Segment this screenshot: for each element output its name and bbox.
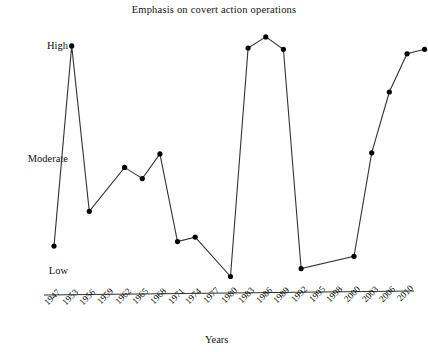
data-point bbox=[87, 209, 92, 214]
data-point bbox=[193, 235, 198, 240]
data-point bbox=[51, 244, 56, 249]
data-point bbox=[351, 254, 356, 259]
data-point bbox=[157, 151, 162, 156]
data-point bbox=[175, 239, 180, 244]
data-point bbox=[246, 46, 251, 51]
data-point bbox=[369, 150, 374, 155]
data-point bbox=[122, 165, 127, 170]
data-point bbox=[69, 43, 74, 48]
data-point bbox=[299, 266, 304, 271]
data-point bbox=[140, 176, 145, 181]
data-series-line bbox=[54, 37, 425, 277]
data-point bbox=[387, 89, 392, 94]
chart-container: Emphasis on covert action operations Hig… bbox=[0, 0, 428, 352]
data-point bbox=[281, 47, 286, 52]
data-point bbox=[263, 34, 268, 39]
data-point bbox=[404, 51, 409, 56]
x-axis-title: Years bbox=[205, 334, 228, 345]
data-point bbox=[228, 274, 233, 279]
data-point bbox=[422, 47, 427, 52]
